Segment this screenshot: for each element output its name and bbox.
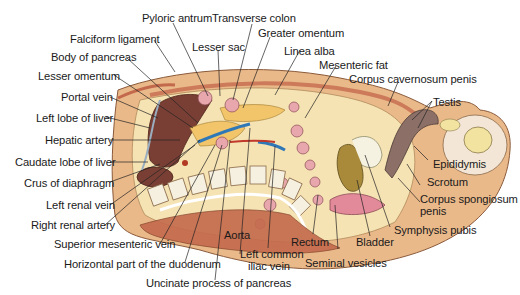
label-symphysis-pubis: Symphysis pubis	[394, 224, 476, 237]
label-crus-of-diaphragm: Crus of diaphragm	[24, 177, 114, 190]
label-epididymis: Epididymis	[433, 158, 486, 171]
label-aorta: Aorta	[224, 229, 250, 242]
label-testis: Testis	[433, 96, 461, 109]
label-horizontal-duodenum: Horizontal part of the duodenum	[64, 258, 221, 271]
label-bladder: Bladder	[356, 236, 394, 249]
label-corpus-spongiosum-2: penis	[420, 205, 446, 218]
testis-shape	[464, 127, 492, 153]
label-caudate-lobe-of-liver: Caudate lobe of liver	[15, 156, 116, 169]
label-left-lobe-of-liver: Left lobe of liver	[36, 112, 113, 125]
label-seminal-vesicles: Seminal vesicles	[305, 257, 387, 270]
label-transverse-colon: Transverse colon	[212, 12, 296, 25]
label-falciform-ligament: Falciform ligament	[70, 33, 160, 46]
label-pyloric-antrum: Pyloric antrum	[142, 12, 212, 25]
anatomy-figure: Pyloric antrum Transverse colon Falcifor…	[0, 0, 520, 295]
label-mesenteric-fat: Mesenteric fat	[319, 59, 388, 72]
label-right-renal-artery: Right renal artery	[31, 219, 115, 232]
label-corpus-cavernosum-penis: Corpus cavernosum penis	[349, 73, 477, 86]
label-uncinate-process: Uncinate process of pancreas	[146, 277, 291, 290]
label-portal-vein: Portal vein	[61, 91, 113, 104]
label-linea-alba: Linea alba	[284, 45, 335, 58]
hepatic-artery-vessel	[182, 160, 188, 166]
label-hepatic-artery: Hepatic artery	[45, 134, 113, 147]
label-scrotum: Scrotum	[427, 176, 468, 189]
label-body-of-pancreas: Body of pancreas	[51, 51, 136, 64]
label-greater-omentum: Greater omentum	[258, 27, 344, 40]
testis-upper	[440, 119, 460, 131]
label-left-common-iliac-2: iliac vein	[248, 260, 290, 273]
label-lesser-sac: Lesser sac	[192, 41, 245, 54]
label-superior-mesenteric-vein: Superior mesenteric vein	[54, 238, 175, 251]
label-left-renal-vein: Left renal vein	[46, 199, 115, 212]
label-lesser-omentum: Lesser omentum	[38, 70, 120, 83]
